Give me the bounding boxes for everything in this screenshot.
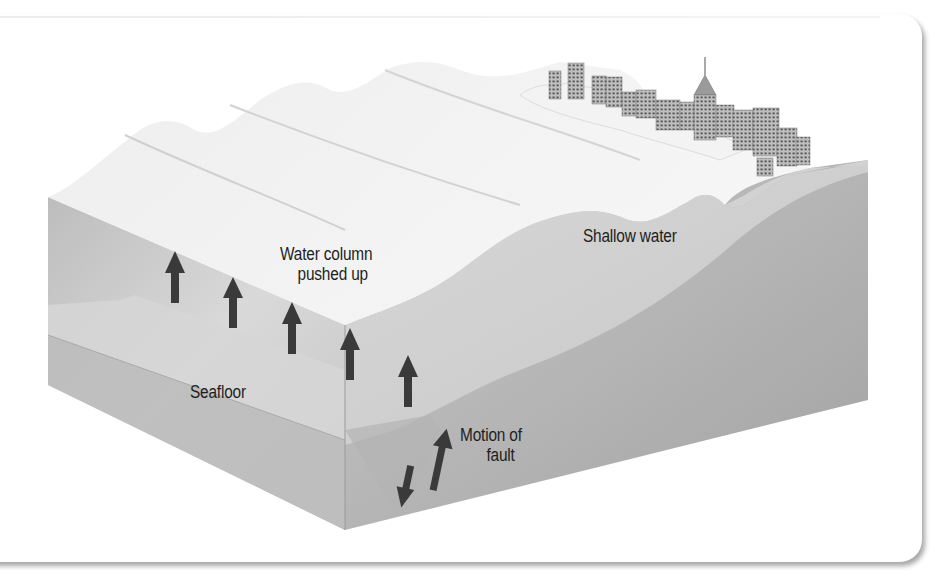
label-water-column: Water column pushed up (280, 244, 372, 284)
label-fault-line1: Motion of (460, 425, 522, 445)
spire-tower (694, 95, 716, 140)
label-water-column-line2: pushed up (280, 264, 372, 284)
label-shallow-water: Shallow water (583, 226, 677, 246)
label-motion-of-fault: Motion of fault (460, 425, 522, 465)
label-seafloor: Seafloor (190, 382, 246, 402)
tsunami-block-diagram (0, 0, 935, 579)
label-fault-line2: fault (460, 445, 522, 465)
label-water-column-line1: Water column (280, 244, 372, 264)
spire-roof (694, 75, 716, 95)
